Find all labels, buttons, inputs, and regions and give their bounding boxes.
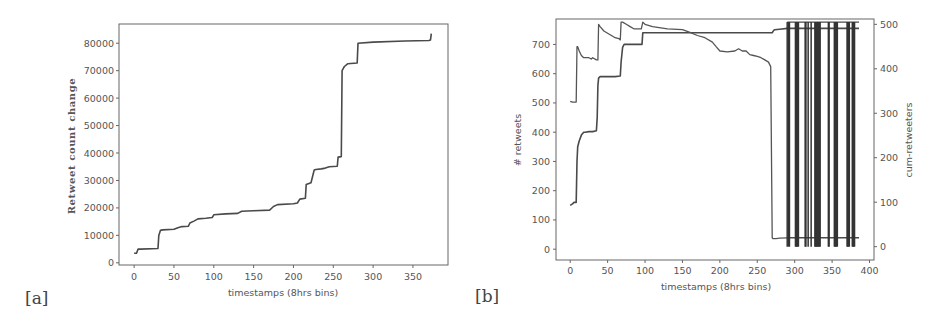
x-tick-label: 100 xyxy=(636,265,654,276)
series-oscillating-tail xyxy=(787,22,859,247)
y-tick-label: 10000 xyxy=(84,230,114,241)
y-tick-label: 40000 xyxy=(84,148,114,159)
panel-a-x-ticks: 050100150200250300350 xyxy=(131,265,422,282)
y-tick-label: 70000 xyxy=(84,65,114,76)
x-tick-label: 200 xyxy=(711,265,729,276)
x-tick-label: 250 xyxy=(324,271,342,282)
x-tick-label: 150 xyxy=(245,271,263,282)
line-retweet-count-change xyxy=(134,34,431,254)
panel-b-x-ticks: 050100150200250300350400 xyxy=(567,260,878,276)
x-tick-label: 0 xyxy=(131,271,137,282)
x-tick-label: 350 xyxy=(823,265,841,276)
x-tick-label: 50 xyxy=(168,271,180,282)
y-right-tick-label: 400 xyxy=(880,63,898,74)
y-tick-label: 50000 xyxy=(84,120,114,131)
x-tick-label: 0 xyxy=(567,265,573,276)
panel-a-y-ticks: 0100002000030000400005000060000700008000… xyxy=(84,38,119,269)
panel-a-y-axis-label: Retweet count change xyxy=(66,78,77,215)
x-tick-label: 150 xyxy=(673,265,691,276)
y-tick-label: 300 xyxy=(532,156,550,167)
y-right-tick-label: 500 xyxy=(880,19,898,30)
panel-b-y-ticks-right: 0100200300400500 xyxy=(874,19,898,252)
panel-b-chart: 050100150200250300350400 010020030040050… xyxy=(475,19,914,306)
panel-a-chart: 050100150200250300350 010000200003000040… xyxy=(25,24,448,308)
panel-b-x-axis-label: timestamps (8hrs bins) xyxy=(661,281,771,292)
x-tick-label: 200 xyxy=(284,271,302,282)
y-tick-label: 400 xyxy=(532,127,550,138)
x-tick-label: 100 xyxy=(205,271,223,282)
y-tick-label: 500 xyxy=(532,97,550,108)
y-tick-label: 0 xyxy=(108,257,114,268)
panel-b-label: [b] xyxy=(475,286,499,306)
x-tick-label: 300 xyxy=(786,265,804,276)
panel-b-series xyxy=(570,22,859,247)
x-tick-label: 350 xyxy=(404,271,422,282)
panel-a-series xyxy=(134,34,431,254)
panel-b-plot-frame xyxy=(556,19,874,260)
line-retweeters-per-bin xyxy=(570,22,787,239)
y-tick-label: 20000 xyxy=(84,202,114,213)
panel-a-label: [a] xyxy=(25,288,48,308)
figure: 050100150200250300350 010000200003000040… xyxy=(0,0,933,329)
y-tick-label: 100 xyxy=(532,214,550,225)
x-tick-label: 300 xyxy=(364,271,382,282)
y-right-tick-label: 0 xyxy=(880,241,886,252)
x-tick-label: 400 xyxy=(860,265,878,276)
y-right-tick-label: 200 xyxy=(880,152,898,163)
y-tick-label: 0 xyxy=(544,244,550,255)
x-tick-label: 250 xyxy=(748,265,766,276)
y-tick-label: 700 xyxy=(532,39,550,50)
y-right-tick-label: 300 xyxy=(880,108,898,119)
y-right-tick-label: 100 xyxy=(880,197,898,208)
y-tick-label: 30000 xyxy=(84,175,114,186)
panel-a-x-axis-label: timestamps (8hrs bins) xyxy=(228,287,338,298)
y-tick-label: 80000 xyxy=(84,38,114,49)
panel-b-y-ticks-left: 0100200300400500600700 xyxy=(532,39,556,255)
y-tick-label: 200 xyxy=(532,185,550,196)
y-tick-label: 60000 xyxy=(84,93,114,104)
panel-b-y-axis-label-left: # retweets xyxy=(512,114,523,166)
x-tick-label: 50 xyxy=(602,265,614,276)
panel-b-y-axis-label-right: cum-retweeters xyxy=(903,102,914,177)
y-tick-label: 600 xyxy=(532,68,550,79)
